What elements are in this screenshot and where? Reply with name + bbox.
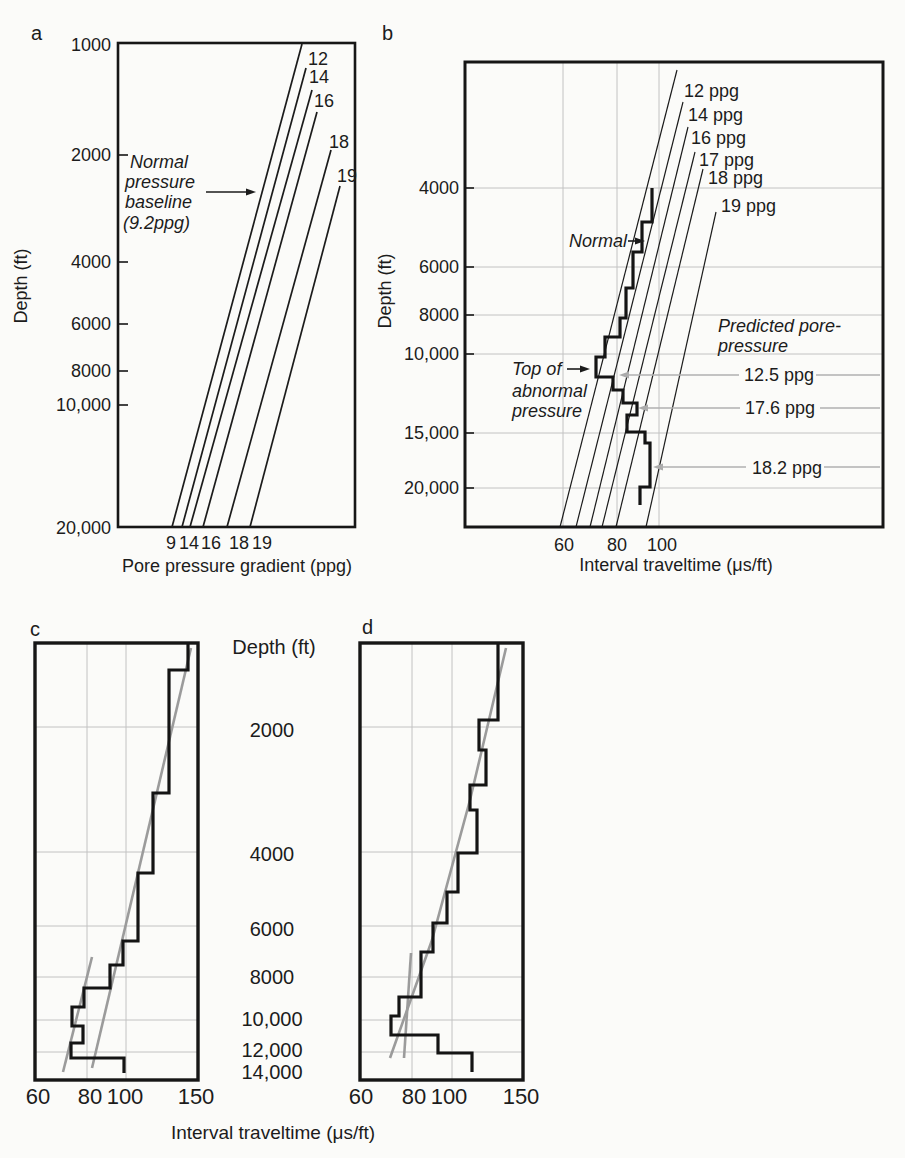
- predicted-heading-1: Predicted pore-: [718, 316, 841, 336]
- ytick-label: 20,000: [56, 518, 111, 538]
- panel-b-ytick-labels: 4000 6000 8000 10,000 15,000 20,000: [404, 178, 459, 498]
- fan-label-18ppg: 18 ppg: [708, 168, 763, 188]
- line-foot-label-18: 18: [229, 533, 249, 553]
- panel-b-xaxis-title: Interval traveltime (μs/ft): [579, 555, 772, 575]
- ytick-label: 1000: [71, 35, 111, 55]
- panel-c-plot-frame: [35, 643, 198, 1080]
- ytick-label: 8000: [419, 305, 459, 325]
- figure-pore-pressure-panels: a 1000 2000 4000 6000 8000 1: [0, 0, 905, 1158]
- fan-label-17ppg: 17 ppg: [699, 150, 754, 170]
- panel-a-baseline-arrow: [206, 189, 256, 196]
- ytick-label: 8000: [71, 361, 111, 381]
- predicted-value-12-5: 12.5 ppg: [744, 365, 814, 385]
- ytick-label: 6000: [419, 257, 459, 277]
- depth-scale-title: Depth (ft): [232, 636, 315, 658]
- line-foot-label-19: 19: [252, 533, 272, 553]
- line-label-18: 18: [329, 132, 349, 152]
- panel-a-gradient-lines: [172, 44, 340, 527]
- ytick-label: 10,000: [56, 395, 111, 415]
- ytick-label: 6000: [71, 314, 111, 334]
- predicted-value-18-2: 18.2 ppg: [752, 458, 822, 478]
- depth-label-6000: 6000: [250, 918, 295, 940]
- ytick-label: 4000: [71, 252, 111, 272]
- note-line-2: pressure: [124, 172, 195, 192]
- panel-b-fan-line-labels: 12 ppg 14 ppg 16 ppg 17 ppg 18 ppg 19 pp…: [684, 81, 776, 216]
- ytick-label: 4000: [419, 178, 459, 198]
- panel-c-gridlines: [35, 643, 198, 1080]
- depth-label-8000: 8000: [250, 966, 295, 988]
- panel-b-xtick-labels: 60 80 100: [554, 535, 677, 555]
- note-line-4: (9.2ppg): [123, 213, 190, 233]
- panel-b-predicted-labels: Predicted pore- pressure 12.5 ppg 17.6 p…: [717, 316, 841, 478]
- gradient-line-9ppg: [172, 44, 302, 527]
- xtick-label-80: 80: [607, 535, 627, 555]
- center-depth-scale: Depth (ft) 2000 4000 6000 8000 10,000 12…: [232, 636, 315, 1083]
- panel-c-normal-trend-line: [92, 648, 191, 1068]
- panel-b-normal-annotation: Normal: [569, 231, 645, 251]
- xtick-label-100: 100: [647, 535, 677, 555]
- abnormal-line-3: pressure: [511, 401, 582, 421]
- fan-label-14ppg: 14 ppg: [688, 105, 743, 125]
- line-label-16: 16: [314, 91, 334, 111]
- panel-d-letter: d: [362, 616, 373, 638]
- xtick-label-150: 150: [178, 1084, 215, 1109]
- abnormal-line-1: Top of: [512, 359, 563, 379]
- ytick-label: 2000: [71, 145, 111, 165]
- xtick-label-60: 60: [349, 1084, 373, 1109]
- panel-b: b: [375, 22, 883, 575]
- fan-label-19ppg: 19 ppg: [721, 196, 776, 216]
- ytick-label: 15,000: [404, 423, 459, 443]
- xtick-label-100: 100: [107, 1084, 144, 1109]
- xtick-label-80: 80: [402, 1084, 426, 1109]
- panel-b-predicted-arrows: [619, 372, 880, 471]
- panel-a-ytick-labels: 1000 2000 4000 6000 8000 10,000 20,000: [56, 35, 111, 538]
- xtick-label-80: 80: [78, 1084, 102, 1109]
- cd-shared-xaxis-title: Interval traveltime (μs/ft): [171, 1122, 375, 1143]
- line-foot-label-14: 14: [179, 533, 199, 553]
- note-line-1: Normal: [130, 152, 189, 172]
- depth-label-12000: 12,000: [241, 1039, 302, 1061]
- arrow-right-icon: [580, 366, 590, 373]
- panel-d-xtick-labels: 60 80 100 150: [349, 1084, 540, 1109]
- panel-a-yaxis-title: Depth (ft): [11, 248, 31, 323]
- xtick-label-60: 60: [26, 1084, 50, 1109]
- panel-d: d 60 80 100 150: [349, 616, 540, 1109]
- gradient-line-12ppg: [182, 68, 306, 527]
- line-foot-label-16: 16: [201, 533, 221, 553]
- xtick-label-60: 60: [554, 535, 574, 555]
- ytick-label: 10,000: [404, 344, 459, 364]
- xtick-label-100: 100: [431, 1084, 468, 1109]
- depth-label-14000: 14,000: [241, 1061, 302, 1083]
- line-label-14: 14: [309, 67, 329, 87]
- predicted-heading-2: pressure: [717, 336, 788, 356]
- panel-b-abnormal-annotation: Top of abnormal pressure: [511, 359, 590, 421]
- gradient-line-19ppg: [250, 186, 340, 527]
- panel-a: a 1000 2000 4000 6000 8000 1: [11, 22, 357, 576]
- depth-label-10000: 10,000: [241, 1008, 302, 1030]
- panel-a-baseline-note: Normal pressure baseline (9.2ppg): [123, 152, 195, 233]
- line-label-19: 19: [337, 166, 357, 186]
- abnormal-line-2: abnormal: [512, 381, 588, 401]
- line-foot-label-9: 9: [166, 533, 176, 553]
- panel-a-xaxis-title: Pore pressure gradient (ppg): [122, 556, 352, 576]
- panel-a-line-bottom-labels: 9 14 16 18 19: [166, 533, 272, 553]
- arrow-right-icon: [246, 189, 256, 196]
- panel-c: c 60 80 100 150: [26, 618, 215, 1109]
- depth-label-4000: 4000: [250, 843, 295, 865]
- panel-c-letter: c: [30, 618, 40, 640]
- line-label-12: 12: [308, 49, 328, 69]
- panel-c-shifted-trend-line: [63, 957, 92, 1072]
- depth-label-2000: 2000: [250, 719, 295, 741]
- predicted-value-17-6: 17.6 ppg: [745, 398, 815, 418]
- note-line-3: baseline: [125, 192, 192, 212]
- fan-label-12ppg: 12 ppg: [684, 81, 739, 101]
- ytick-label: 20,000: [404, 478, 459, 498]
- panel-b-yaxis-title: Depth (ft): [375, 253, 395, 328]
- gradient-line-16ppg: [203, 112, 317, 527]
- panel-c-sonic-log-curve: [71, 644, 188, 1073]
- normal-label: Normal: [569, 231, 628, 251]
- panel-c-xtick-labels: 60 80 100 150: [26, 1084, 215, 1109]
- xtick-label-150: 150: [503, 1084, 540, 1109]
- gradient-line-14ppg: [190, 90, 312, 527]
- panel-a-letter: a: [31, 22, 43, 44]
